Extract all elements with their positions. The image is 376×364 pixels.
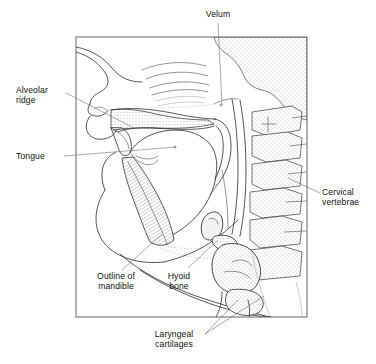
cervical-vertebrae-group [250, 106, 306, 280]
label-cervical-vertebrae: Cervical vertebrae [322, 187, 376, 208]
label-outline-of-mandible: Outline of mandible [84, 271, 148, 292]
leader-tongue [64, 147, 176, 156]
pharynx-lumen [222, 170, 228, 228]
vocal-tract-drawing [0, 0, 376, 364]
nasal-turbinates [142, 63, 214, 108]
cricoid-cartilage [226, 289, 264, 315]
anatomical-figure: Velum Alveolar ridge Tongue Cervical ver… [0, 0, 376, 364]
lower-lip [102, 152, 116, 190]
vertebra-c3 [252, 160, 302, 190]
pharyngeal-wall-anterior [232, 99, 238, 234]
vertebra-c2 [252, 132, 302, 162]
alveolar-ridge-curve [118, 132, 129, 149]
trachea-anterior [216, 292, 222, 317]
uvula [210, 186, 216, 194]
nasal-bridge-contour [76, 47, 142, 82]
pharyngeal-wall-posterior [240, 100, 246, 236]
label-hyoid-bone: Hyoid bone [156, 271, 202, 292]
vertebra-c1 [252, 106, 302, 136]
vertebra-c4 [250, 188, 302, 218]
leader-outline-of-mandible [122, 234, 162, 270]
leader-velum [218, 23, 222, 105]
nasal-dorsum [76, 52, 108, 104]
label-alveolar-ridge: Alveolar ridge [16, 85, 76, 106]
label-tongue: Tongue [16, 151, 76, 161]
vertebra-c5 [250, 216, 302, 248]
label-laryngeal-cartilages: Laryngeal cartilages [141, 329, 207, 350]
tongue-blade-underside [136, 156, 158, 159]
nasopharynx-line [214, 99, 238, 104]
posterior-neck-line [296, 282, 302, 317]
label-velum: Velum [190, 9, 246, 19]
